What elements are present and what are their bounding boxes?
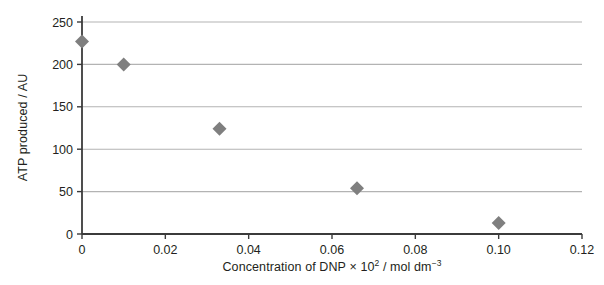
gridlines-group (82, 22, 582, 192)
x-tick-label: 0 (79, 243, 86, 257)
y-tick-label: 100 (52, 143, 73, 157)
y-tick-label: 200 (52, 58, 73, 72)
x-tick-label: 0.06 (320, 243, 344, 257)
data-point-marker (213, 122, 227, 136)
y-tick-label: 50 (59, 185, 73, 199)
plot-area: 050100150200250 00.020.040.060.080.100.1… (0, 0, 604, 285)
data-point-marker (117, 57, 131, 71)
data-point-marker (492, 216, 506, 230)
data-markers-group (75, 35, 506, 230)
x-tick-label: 0.04 (236, 243, 260, 257)
x-tick-label: 0.08 (403, 243, 427, 257)
data-point-marker (350, 181, 364, 195)
data-point-marker (75, 35, 89, 49)
x-tick-group: 00.020.040.060.080.100.12 (79, 234, 595, 257)
y-tick-label: 150 (52, 100, 73, 114)
y-tick-group: 050100150200250 (52, 16, 82, 242)
y-tick-label: 0 (66, 228, 73, 242)
x-tick-label: 0.12 (570, 243, 594, 257)
x-tick-label: 0.02 (153, 243, 177, 257)
x-tick-label: 0.10 (486, 243, 510, 257)
y-tick-label: 250 (52, 16, 73, 30)
chart-figure: ATP produced / AU Concentration of DNP ×… (0, 0, 604, 285)
